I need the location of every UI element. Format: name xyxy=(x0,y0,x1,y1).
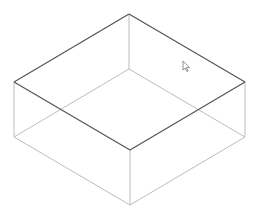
edge-bottom-left-front xyxy=(14,137,130,205)
edge-bottom-left-back xyxy=(14,69,129,137)
light-edges xyxy=(14,14,245,205)
edge-top-right-front xyxy=(130,82,245,150)
edge-top-back-left xyxy=(14,14,129,82)
3d-viewport[interactable] xyxy=(0,0,254,215)
arrow-pointer-icon xyxy=(183,61,190,72)
edge-bottom-front-right xyxy=(130,137,245,205)
box-wireframe[interactable] xyxy=(0,0,254,215)
edge-top-left-front xyxy=(14,82,130,150)
edge-bottom-back-right xyxy=(129,69,245,137)
